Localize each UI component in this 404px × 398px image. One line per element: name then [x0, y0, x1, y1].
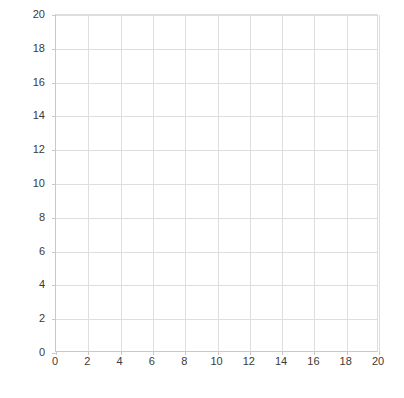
y-tick-label: 14 [0, 109, 45, 122]
gridline-horizontal [56, 319, 377, 320]
x-tick-label: 6 [149, 355, 155, 368]
plot-area [55, 14, 378, 352]
x-tick-label: 20 [372, 355, 384, 368]
gridline-vertical [282, 15, 283, 351]
x-tick-label: 0 [52, 355, 58, 368]
y-tick-label: 20 [0, 8, 45, 21]
gridline-horizontal [56, 49, 377, 50]
x-tick-label: 14 [275, 355, 287, 368]
y-tick-label: 0 [0, 346, 45, 359]
gridline-vertical [121, 15, 122, 351]
x-tick-label: 4 [117, 355, 123, 368]
gridline-horizontal [56, 116, 377, 117]
y-tick-mark [52, 353, 56, 354]
y-tick-mark [52, 218, 56, 219]
x-tick-label: 16 [307, 355, 319, 368]
y-tick-label: 8 [0, 210, 45, 223]
chart-title [0, 0, 404, 12]
x-tick-label: 18 [340, 355, 352, 368]
y-tick-mark [52, 116, 56, 117]
y-tick-mark [52, 319, 56, 320]
x-tick-label: 2 [84, 355, 90, 368]
y-tick-label: 6 [0, 244, 45, 257]
gridline-vertical [153, 15, 154, 351]
y-tick-mark [52, 15, 56, 16]
gridline-vertical [314, 15, 315, 351]
y-tick-mark [52, 150, 56, 151]
gridline-vertical [185, 15, 186, 351]
gridline-vertical [88, 15, 89, 351]
gridline-horizontal [56, 184, 377, 185]
gridline-horizontal [56, 252, 377, 253]
y-tick-mark [52, 285, 56, 286]
y-tick-mark [52, 184, 56, 185]
gridline-horizontal [56, 83, 377, 84]
y-tick-label: 4 [0, 278, 45, 291]
y-tick-mark [52, 49, 56, 50]
y-tick-mark [52, 83, 56, 84]
x-tick-label: 10 [210, 355, 222, 368]
gridline-horizontal [56, 285, 377, 286]
x-tick-label: 8 [181, 355, 187, 368]
chart-figure: 02468101214161820 02468101214161820 [0, 0, 404, 398]
gridline-horizontal [56, 218, 377, 219]
gridline-vertical [250, 15, 251, 351]
gridline-horizontal [56, 150, 377, 151]
y-tick-label: 18 [0, 41, 45, 54]
gridline-vertical [218, 15, 219, 351]
y-tick-label: 10 [0, 177, 45, 190]
gridline-horizontal [56, 15, 377, 16]
gridline-vertical [347, 15, 348, 351]
gridline-vertical [379, 15, 380, 351]
y-tick-mark [52, 252, 56, 253]
y-tick-label: 16 [0, 75, 45, 88]
x-tick-label: 12 [243, 355, 255, 368]
y-tick-label: 2 [0, 312, 45, 325]
y-tick-label: 12 [0, 143, 45, 156]
